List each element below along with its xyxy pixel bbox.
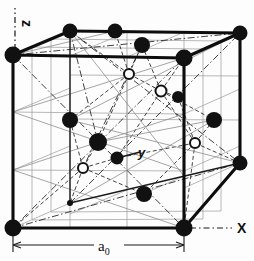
z-axis-label: z xyxy=(19,20,35,27)
corner-front-top-right-atom xyxy=(176,50,193,67)
interior-atom-upper-left-atom xyxy=(124,69,134,79)
tetrahedral-bond-lines xyxy=(13,31,240,228)
face-center-top-atom xyxy=(108,24,123,39)
corner-back-top-left-atom xyxy=(63,24,78,39)
corner-front-top-left-atom xyxy=(5,47,22,64)
x-axis-label: X xyxy=(237,220,247,236)
face-center-front-atom xyxy=(89,133,107,151)
lattice-constant-label: a0 xyxy=(98,238,110,257)
corner-front-bottom-right-atom xyxy=(176,220,193,237)
interior-atom-lower-left-atom xyxy=(78,163,88,173)
face-center-upper-right-atom xyxy=(172,91,184,103)
y-axis-label: y xyxy=(137,145,146,160)
face-center-back-atom xyxy=(134,37,150,53)
lattice-svg: z X y a0 xyxy=(0,0,254,261)
lattice-constant-subscript: 0 xyxy=(105,246,110,257)
face-center-interior-mid-atom xyxy=(111,152,124,165)
interior-atom-upper-right-atom xyxy=(156,86,167,97)
interior-atom-lower-right-atom xyxy=(190,138,200,148)
corner-back-top-right-atom xyxy=(233,26,248,41)
crystal-lattice-figure: z X y a0 xyxy=(0,0,254,261)
face-center-bottom-atom xyxy=(136,186,152,202)
corner-back-bottom-right-atom xyxy=(233,156,248,171)
corner-back-bottom-left-atom xyxy=(67,200,73,206)
corner-front-bottom-left-atom xyxy=(5,220,22,237)
face-center-right-atom xyxy=(206,112,222,128)
face-center-left-atom xyxy=(62,112,78,128)
